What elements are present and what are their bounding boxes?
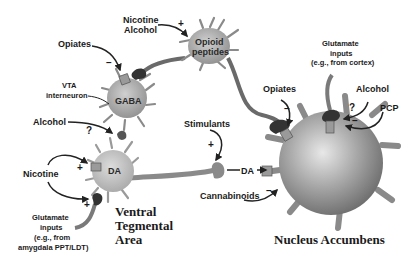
sign-pcp-nac: –: [352, 115, 358, 126]
opioid-to-gaba-axon: [142, 58, 185, 73]
label-da-release: DA: [241, 166, 254, 176]
sign-alcohol-nac: ?: [349, 102, 355, 113]
nac-da-receptor: [262, 166, 272, 176]
label-nicotine-vta: Nicotine: [23, 169, 59, 179]
label-vta-region-2: Tegmental: [115, 218, 173, 233]
sign-cannabinoids-nac: –: [266, 185, 272, 196]
sign-nicotine-glut: +: [84, 199, 90, 210]
sign-alcohol-da: ?: [86, 125, 92, 136]
label-opiates-vta: Opiates: [58, 39, 91, 49]
label-vta: VTA: [62, 81, 77, 90]
label-glut-vta-1: Glutamate: [32, 213, 69, 222]
sign-opiates-nac: –: [284, 103, 290, 114]
label-nac-region: Nucleus Accumbens: [274, 232, 385, 247]
label-opioid: Opioid: [195, 37, 224, 47]
label-vta-region-3: Area: [115, 232, 143, 247]
label-interneuron: interneuron: [46, 91, 88, 100]
label-glut-nac-2: inputs: [330, 49, 353, 58]
glutamate-nac-axon: [327, 75, 332, 110]
label-nicotine-top: Nicotine: [123, 15, 159, 25]
label-glut-vta-2: inputs: [40, 223, 63, 232]
label-glut-nac-3: (e.g., from cortex): [311, 58, 375, 67]
sign-nicotine-da: +: [77, 162, 83, 173]
sign-opiates-gaba: –: [106, 57, 112, 68]
label-pcp: PCP: [380, 103, 399, 113]
vta-interneuron-pointer: [88, 96, 109, 104]
label-alcohol-top: Alcohol: [124, 25, 157, 35]
label-peptides: peptides: [192, 47, 229, 57]
label-glut-vta-3: (e.g., from: [34, 233, 71, 242]
glutamate-vta-terminal: [92, 193, 102, 205]
da-terminal: [212, 162, 225, 178]
label-alcohol-vta: Alcohol: [33, 117, 66, 127]
sign-stimulants-da: +: [208, 139, 214, 150]
label-glut-vta-4: amygdala PPT/LDT): [18, 243, 89, 252]
label-alcohol-nac: Alcohol: [356, 84, 389, 94]
sign-nicotine-alcohol-opioid: +: [178, 18, 184, 29]
label-vta-region-1: Ventral: [115, 204, 157, 219]
arrow-nicotine-to-glut: [48, 182, 88, 199]
label-stimulants: Stimulants: [184, 119, 230, 129]
reward-circuit-diagram: Nicotine Alcohol + Opioid peptides Opiat…: [0, 0, 414, 265]
label-cannabinoids: Cannabinoids: [200, 191, 260, 201]
da-nicotine-receptor: [91, 163, 101, 171]
label-opiates-nac: Opiates: [263, 84, 296, 94]
da-axon: [130, 170, 215, 178]
alcohol-gaba-terminal-on-da: [117, 131, 126, 140]
label-gaba: GABA: [115, 96, 142, 106]
label-da-cell: DA: [108, 166, 121, 176]
label-glut-nac-1: Glutamate: [322, 39, 359, 48]
nac-glutamate-receptor: [326, 121, 334, 133]
